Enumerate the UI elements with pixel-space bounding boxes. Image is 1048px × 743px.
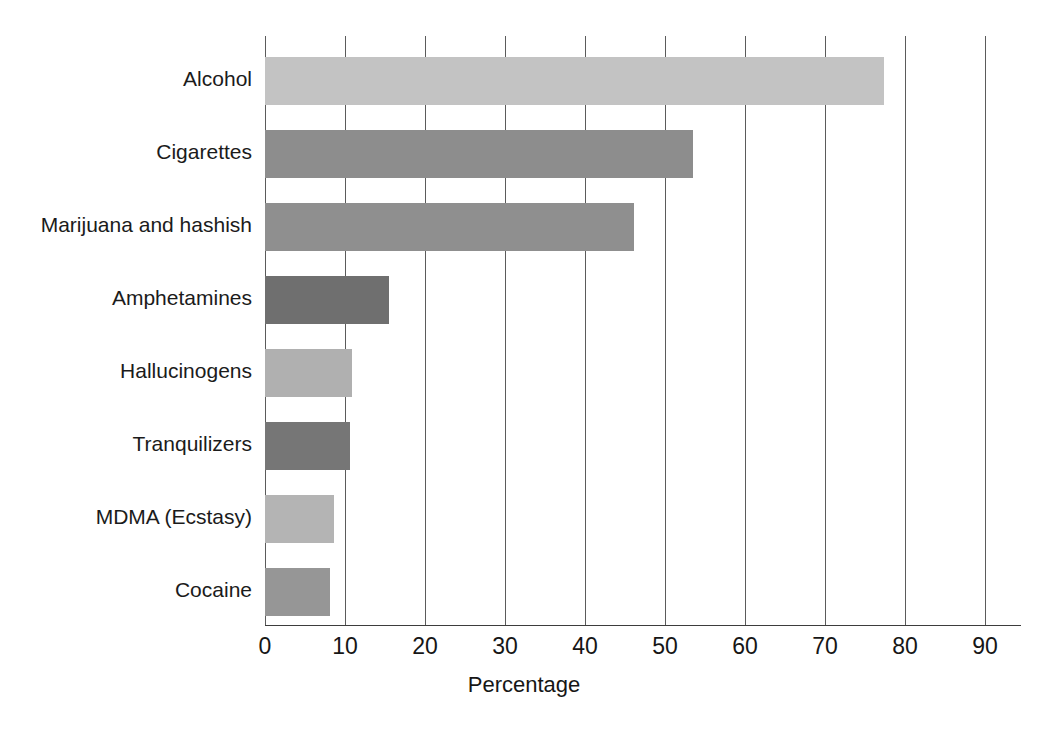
- x-axis-title: Percentage: [0, 672, 1048, 698]
- bar: [265, 349, 352, 397]
- gridline-20: [425, 36, 426, 625]
- x-tick-label: 20: [395, 633, 455, 660]
- plot-area: [265, 36, 985, 625]
- x-tick-label: 0: [235, 633, 295, 660]
- x-tick-label: 50: [635, 633, 695, 660]
- gridline-90: [985, 36, 986, 625]
- category-label: Cigarettes: [0, 140, 252, 164]
- x-tick-label: 90: [955, 633, 1015, 660]
- bar: [265, 495, 334, 543]
- category-label: Marijuana and hashish: [0, 213, 252, 237]
- category-label: MDMA (Ecstasy): [0, 505, 252, 529]
- bar: [265, 203, 634, 251]
- category-label: Amphetamines: [0, 286, 252, 310]
- bar-chart: AlcoholCigarettesMarijuana and hashishAm…: [0, 0, 1048, 743]
- x-tick-label: 70: [795, 633, 855, 660]
- gridline-70: [825, 36, 826, 625]
- x-tick-label: 40: [555, 633, 615, 660]
- bar: [265, 57, 884, 105]
- gridline-40: [585, 36, 586, 625]
- gridline-80: [905, 36, 906, 625]
- x-tick-label: 80: [875, 633, 935, 660]
- gridline-30: [505, 36, 506, 625]
- bar: [265, 568, 330, 616]
- bar: [265, 422, 350, 470]
- bar: [265, 276, 389, 324]
- gridline-60: [745, 36, 746, 625]
- category-label: Hallucinogens: [0, 359, 252, 383]
- category-label: Alcohol: [0, 67, 252, 91]
- x-axis-line: [265, 625, 1021, 626]
- x-tick-label: 60: [715, 633, 775, 660]
- gridline-50: [665, 36, 666, 625]
- x-tick-label: 10: [315, 633, 375, 660]
- gridline-10: [345, 36, 346, 625]
- category-label: Tranquilizers: [0, 432, 252, 456]
- bar: [265, 130, 693, 178]
- category-label: Cocaine: [0, 578, 252, 602]
- x-tick-label: 30: [475, 633, 535, 660]
